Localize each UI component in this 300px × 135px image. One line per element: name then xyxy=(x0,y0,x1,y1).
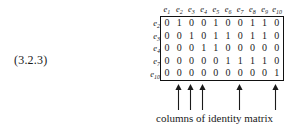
column-header-sub: 10 xyxy=(276,9,282,15)
up-arrow-icon xyxy=(236,84,243,110)
matrix-cell: 0 xyxy=(173,55,185,68)
column-header-e9: e9 xyxy=(259,4,271,17)
matrix-cell: 1 xyxy=(185,30,197,43)
matrix-cell: 1 xyxy=(246,55,258,68)
matrix-row: e70000011110 xyxy=(140,55,283,68)
matrix-cell: 0 xyxy=(222,42,234,55)
matrix-cell: 0 xyxy=(271,30,284,43)
matrix-cell: 0 xyxy=(173,67,185,80)
matrix-cell: 0 xyxy=(161,17,174,30)
row-label-e3: e3 xyxy=(140,30,161,43)
column-header-sub: 7 xyxy=(241,9,244,15)
matrix-cell: 0 xyxy=(198,55,210,68)
matrix-body: e20100100110e30010110110e40001100000e700… xyxy=(140,17,283,81)
matrix-cell: 1 xyxy=(210,30,222,43)
column-header-e8: e8 xyxy=(246,4,258,17)
row-label-e4: e4 xyxy=(140,42,161,55)
column-header-sub: 9 xyxy=(265,9,268,15)
up-arrow-icon xyxy=(199,84,206,110)
row-label-sub: 2 xyxy=(157,23,160,29)
matrix-cell: 1 xyxy=(173,17,185,30)
equation-number: (3.2.3) xyxy=(14,53,47,68)
matrix-cell: 0 xyxy=(222,17,234,30)
matrix-cell: 0 xyxy=(234,30,246,43)
matrix-cell: 0 xyxy=(246,42,258,55)
matrix-row: e30010110110 xyxy=(140,30,283,43)
matrix-cell: 0 xyxy=(185,67,197,80)
arrow-to-column-7 xyxy=(236,84,243,110)
matrix-cell: 0 xyxy=(246,67,258,80)
matrix-cell: 0 xyxy=(161,67,174,80)
column-header-e7: e7 xyxy=(234,4,246,17)
column-header-sub: 5 xyxy=(216,9,219,15)
matrix-cell: 1 xyxy=(210,17,222,30)
row-label-e10: e10 xyxy=(140,67,161,80)
matrix-cell: 1 xyxy=(222,55,234,68)
matrix-cell: 0 xyxy=(234,42,246,55)
column-header-e1: e1 xyxy=(161,4,174,17)
matrix-figure: e1 e2 e3 e4 e5 e6 e7 e8 e9 e10 e20100100… xyxy=(140,4,284,81)
matrix-cell: 0 xyxy=(271,17,284,30)
column-header-e4: e4 xyxy=(198,4,210,17)
matrix-cell: 1 xyxy=(246,30,258,43)
matrix-cell: 1 xyxy=(210,42,222,55)
column-header-e5: e5 xyxy=(210,4,222,17)
matrix-cell: 1 xyxy=(234,55,246,68)
column-header-sub: 2 xyxy=(180,9,183,15)
matrix-row: e40001100000 xyxy=(140,42,283,55)
matrix-cell: 1 xyxy=(259,17,271,30)
matrix-area: e1 e2 e3 e4 e5 e6 e7 e8 e9 e10 e20100100… xyxy=(140,4,284,81)
identity-submatrix-table: e1 e2 e3 e4 e5 e6 e7 e8 e9 e10 e20100100… xyxy=(140,4,284,81)
column-header-sub: 8 xyxy=(253,9,256,15)
matrix-cell: 0 xyxy=(185,17,197,30)
matrix-cell: 0 xyxy=(198,17,210,30)
matrix-cell: 0 xyxy=(259,42,271,55)
arrow-to-column-3 xyxy=(187,84,194,110)
arrow-to-column-2 xyxy=(175,84,182,110)
row-label-sub: 7 xyxy=(157,61,160,67)
arrows-caption: columns of identity matrix xyxy=(156,112,273,124)
column-header-sub: 3 xyxy=(192,9,195,15)
matrix-cell: 0 xyxy=(185,55,197,68)
row-label-e2: e2 xyxy=(140,17,161,30)
matrix-cell: 0 xyxy=(271,55,284,68)
matrix-cell: 0 xyxy=(161,42,174,55)
matrix-cell: 0 xyxy=(210,67,222,80)
identity-column-arrows xyxy=(140,84,290,110)
matrix-cell: 1 xyxy=(222,30,234,43)
matrix-cell: 0 xyxy=(234,67,246,80)
up-arrow-icon xyxy=(187,84,194,110)
matrix-cell: 0 xyxy=(173,42,185,55)
column-header-sub: 1 xyxy=(167,9,170,15)
matrix-cell: 0 xyxy=(271,42,284,55)
matrix-cell: 0 xyxy=(185,42,197,55)
up-arrow-icon xyxy=(175,84,182,110)
matrix-cell: 0 xyxy=(210,55,222,68)
matrix-cell: 0 xyxy=(222,67,234,80)
matrix-cell: 1 xyxy=(271,67,284,80)
matrix-cell: 1 xyxy=(259,30,271,43)
matrix-row: e100000000001 xyxy=(140,67,283,80)
row-label-sub: 4 xyxy=(157,48,160,54)
matrix-cell: 0 xyxy=(234,17,246,30)
matrix-column-header-row: e1 e2 e3 e4 e5 e6 e7 e8 e9 e10 xyxy=(140,4,283,17)
matrix-cell: 1 xyxy=(259,55,271,68)
column-header-e2: e2 xyxy=(173,4,185,17)
matrix-cell: 0 xyxy=(161,30,174,43)
column-header-e6: e6 xyxy=(222,4,234,17)
arrow-to-column-10 xyxy=(272,84,279,110)
column-header-sub: 6 xyxy=(228,9,231,15)
matrix-row: e20100100110 xyxy=(140,17,283,30)
matrix-cell: 0 xyxy=(161,55,174,68)
matrix-corner-spacer xyxy=(140,4,161,17)
arrow-to-column-4 xyxy=(199,84,206,110)
matrix-cell: 0 xyxy=(259,67,271,80)
row-label-sub: 3 xyxy=(157,36,160,42)
column-header-e3: e3 xyxy=(185,4,197,17)
matrix-cell: 0 xyxy=(198,30,210,43)
column-header-e10: e10 xyxy=(271,4,284,17)
matrix-cell: 0 xyxy=(173,30,185,43)
matrix-cell: 1 xyxy=(198,42,210,55)
matrix-cell: 1 xyxy=(246,17,258,30)
row-label-sub: 10 xyxy=(154,74,160,80)
